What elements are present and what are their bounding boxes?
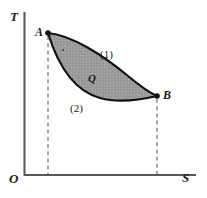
y-axis-label: T — [10, 10, 18, 23]
path-label-2: (2) — [70, 103, 83, 114]
state-label-b: B — [163, 89, 171, 101]
ts-diagram-canvas — [0, 0, 207, 198]
ts-diagram-figure: T S O A B (1) (2) Q — [0, 0, 207, 198]
state-label-a: A — [35, 26, 43, 38]
x-axis-label: S — [182, 171, 189, 184]
path-label-1: (1) — [100, 49, 113, 60]
state-point-a — [45, 30, 51, 36]
shaded-region-q — [48, 33, 157, 101]
state-point-b — [154, 93, 160, 99]
region-label-q: Q — [88, 73, 96, 84]
origin-label: O — [9, 172, 18, 185]
